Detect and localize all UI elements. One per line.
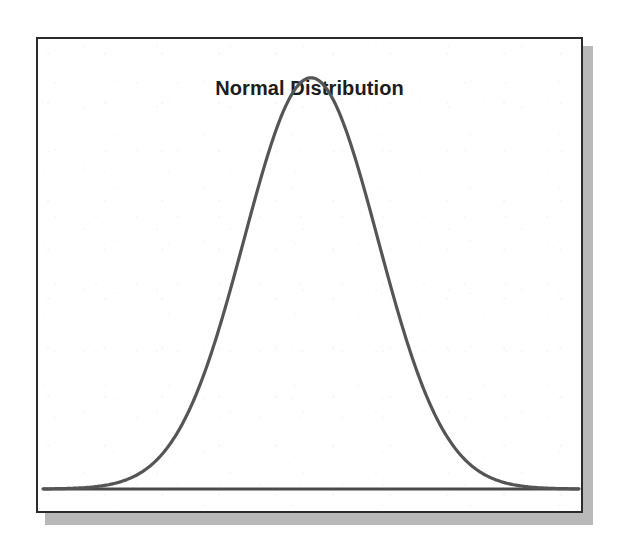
bell-curve-line <box>43 78 579 489</box>
figure-root: Normal Distribution <box>0 0 624 545</box>
normal-distribution-plot <box>38 39 581 511</box>
figure-frame: Normal Distribution <box>36 37 583 513</box>
